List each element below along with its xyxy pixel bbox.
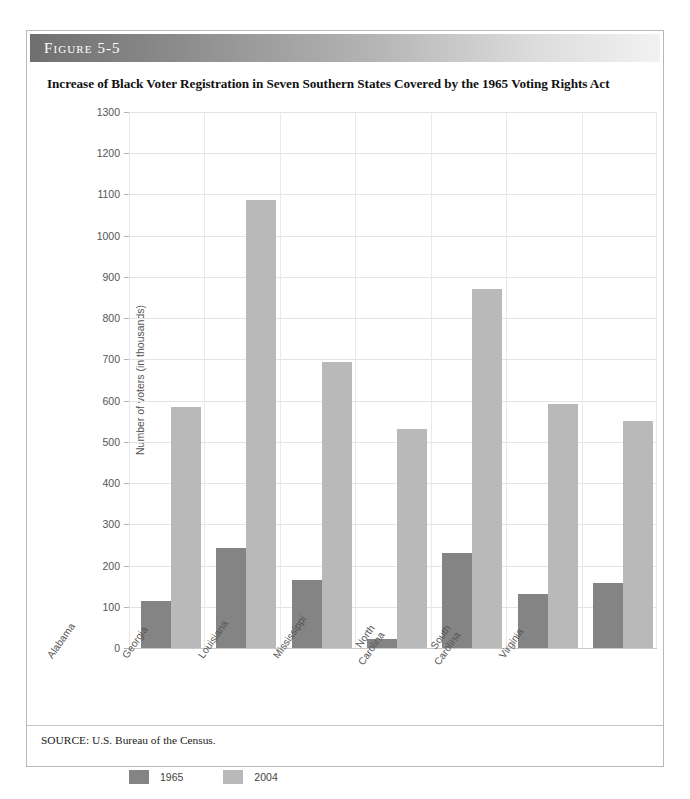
y-axis-tick-label: 500 [102,436,120,448]
y-axis-tick-label: 800 [102,312,120,324]
y-axis-tick-label: 1200 [97,147,120,159]
bar-group [518,112,578,648]
y-axis-tick-label: 1300 [97,106,120,118]
bar-2004 [322,362,352,648]
gridline-vertical [204,112,205,648]
legend-swatch [223,770,243,784]
gridline-vertical [506,112,507,648]
source-note: SOURCE: U.S. Bureau of the Census. [41,734,216,746]
chart-area: Number of voters (in thousands) 01002003… [27,102,663,702]
y-axis-tick-label: 1100 [97,188,120,200]
y-axis-tick-label: 900 [102,271,120,283]
y-axis-tick-label: 700 [102,353,120,365]
bar-group [593,112,653,648]
gridline-vertical [582,112,583,648]
gridline-vertical [129,112,130,648]
gridline-vertical [431,112,432,648]
bar-group [141,112,201,648]
chart-legend: 19652004 [129,770,318,784]
bar-group [442,112,502,648]
figure-header-bar: Figure 5-5 [30,34,660,62]
legend-label: 2004 [254,771,277,783]
gridline-vertical [355,112,356,648]
y-axis-tick-label: 200 [102,560,120,572]
bar-2004 [548,404,578,648]
bar-2004 [171,407,201,648]
y-axis-tick-label: 1000 [97,230,120,242]
legend-item: 2004 [223,770,277,784]
source-divider [27,725,663,726]
y-axis-tick-label: 0 [114,642,120,654]
bar-2004 [623,421,653,648]
bar-1965 [141,601,171,648]
bar-2004 [246,200,276,648]
bar-2004 [472,289,502,648]
figure-container: Figure 5-5 Increase of Black Voter Regis… [26,30,664,767]
plot-region: 0100200300400500600700800900100011001200… [129,112,657,648]
y-axis-tick-label: 600 [102,395,120,407]
bar-2004 [397,429,427,648]
legend-swatch [129,770,149,784]
legend-label: 1965 [160,771,183,783]
gridline-vertical [280,112,281,648]
bar-group [367,112,427,648]
bar-1965 [593,583,623,648]
gridline-vertical [656,112,657,648]
figure-page: Figure 5-5 Increase of Black Voter Regis… [0,0,690,799]
y-axis-tick-label: 100 [102,601,120,613]
bar-group [216,112,276,648]
bar-1965 [518,594,548,648]
figure-title: Increase of Black Voter Registration in … [47,76,643,92]
legend-item: 1965 [129,770,183,784]
figure-number-label: Figure 5-5 [30,40,121,57]
y-axis-tick-label: 300 [102,518,120,530]
y-axis-tick-label: 400 [102,477,120,489]
bar-group [292,112,352,648]
